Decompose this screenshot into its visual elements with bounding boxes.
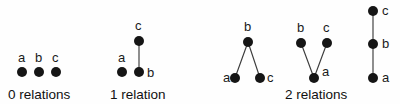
node-label-c: c bbox=[52, 50, 59, 65]
graph-node-b bbox=[368, 39, 378, 49]
graph-node-c bbox=[134, 36, 144, 46]
graph-node-b bbox=[296, 38, 306, 48]
node-label-b: b bbox=[244, 19, 251, 34]
group-caption: 0 relations bbox=[8, 87, 71, 102]
graph-node-c bbox=[255, 73, 265, 83]
graph-node-c bbox=[322, 38, 332, 48]
node-label-a: a bbox=[118, 50, 126, 65]
node-label-a: a bbox=[382, 70, 390, 85]
graph-node-b bbox=[243, 37, 253, 47]
node-label-a: a bbox=[322, 64, 330, 79]
node-label-b: b bbox=[35, 50, 42, 65]
node-label-b: b bbox=[297, 20, 304, 35]
node-label-a: a bbox=[223, 70, 231, 85]
graph-node-a bbox=[368, 73, 378, 83]
node-label-a: a bbox=[18, 50, 26, 65]
node-label-b: b bbox=[147, 65, 154, 80]
graph-node-a bbox=[309, 73, 319, 83]
figure-canvas: abccabbacbcacba 0 relations1 relation2 r… bbox=[0, 0, 400, 104]
group-caption: 2 relations bbox=[285, 87, 348, 102]
node-label-c: c bbox=[382, 3, 389, 18]
graph-node-a bbox=[117, 67, 127, 77]
graph-node-a bbox=[230, 73, 240, 83]
relation-graphs-figure: abccabbacbcacba 0 relations1 relation2 r… bbox=[0, 0, 400, 104]
group-caption: 1 relation bbox=[110, 87, 166, 102]
node-label-c: c bbox=[323, 20, 330, 35]
graph-node-c bbox=[51, 67, 61, 77]
graph-node-b bbox=[34, 67, 44, 77]
graph-node-a bbox=[17, 67, 27, 77]
graph-node-c bbox=[368, 6, 378, 16]
node-label-b: b bbox=[382, 36, 389, 51]
node-label-c: c bbox=[267, 70, 274, 85]
node-label-c: c bbox=[135, 18, 142, 33]
graph-node-b bbox=[134, 67, 144, 77]
